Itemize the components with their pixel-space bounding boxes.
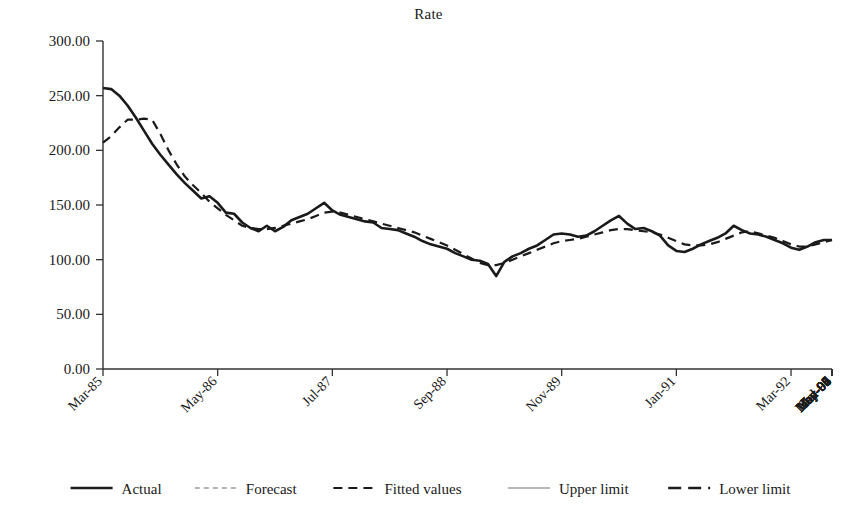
data-series-group bbox=[103, 88, 832, 276]
x-axis-group: Mar-85May-86Jul-87Sep-88Nov-89Jan-91Mar-… bbox=[65, 369, 834, 415]
y-tick-label: 100.00 bbox=[49, 252, 90, 268]
x-tick-label: May-86 bbox=[178, 374, 220, 416]
chart-plot-area: 0.0050.00100.00150.00200.00250.00300.00 … bbox=[0, 0, 857, 519]
y-axis-group: 0.0050.00100.00150.00200.00250.00300.00 bbox=[49, 33, 103, 377]
y-tick-label: 250.00 bbox=[49, 88, 90, 104]
legend-item-actual[interactable]: Actual bbox=[71, 481, 162, 497]
x-tick-label: Mar-85 bbox=[65, 374, 105, 414]
y-tick-label: 50.00 bbox=[56, 306, 90, 322]
x-axis-ticks: Mar-85May-86Jul-87Sep-88Nov-89Jan-91Mar-… bbox=[65, 369, 834, 415]
y-tick-label: 150.00 bbox=[49, 197, 90, 213]
x-tick-label: Nov-89 bbox=[523, 374, 564, 415]
legend-label: Lower limit bbox=[719, 481, 791, 497]
legend-label: Forecast bbox=[246, 481, 298, 497]
y-tick-label: 0.00 bbox=[64, 361, 90, 377]
legend-item-fitted-values[interactable]: Fitted values bbox=[333, 481, 461, 497]
series-line-fitted-values bbox=[103, 119, 832, 266]
x-tick-label: May-07 bbox=[792, 374, 834, 416]
x-tick-label: Jan-91 bbox=[641, 374, 678, 411]
legend-label: Fitted values bbox=[384, 481, 461, 497]
legend-item-upper-limit[interactable]: Upper limit bbox=[508, 481, 629, 497]
legend-item-lower-limit[interactable]: Lower limit bbox=[668, 481, 791, 497]
y-tick-label: 200.00 bbox=[49, 142, 90, 158]
legend-item-forecast[interactable]: Forecast bbox=[195, 481, 298, 497]
y-tick-label: 300.00 bbox=[49, 33, 90, 49]
legend-label: Actual bbox=[122, 481, 162, 497]
x-tick-label: Jul-87 bbox=[299, 374, 334, 409]
chart-container: Rate 0.0050.00100.00150.00200.00250.0030… bbox=[0, 0, 857, 519]
x-tick-label: Sep-88 bbox=[410, 374, 449, 413]
chart-legend: ActualForecastFitted valuesUpper limitLo… bbox=[71, 481, 792, 497]
y-axis-ticks: 0.0050.00100.00150.00200.00250.00300.00 bbox=[49, 33, 103, 377]
series-line-actual bbox=[103, 88, 832, 276]
legend-label: Upper limit bbox=[559, 481, 629, 497]
x-tick-label: Mar-92 bbox=[753, 374, 793, 414]
